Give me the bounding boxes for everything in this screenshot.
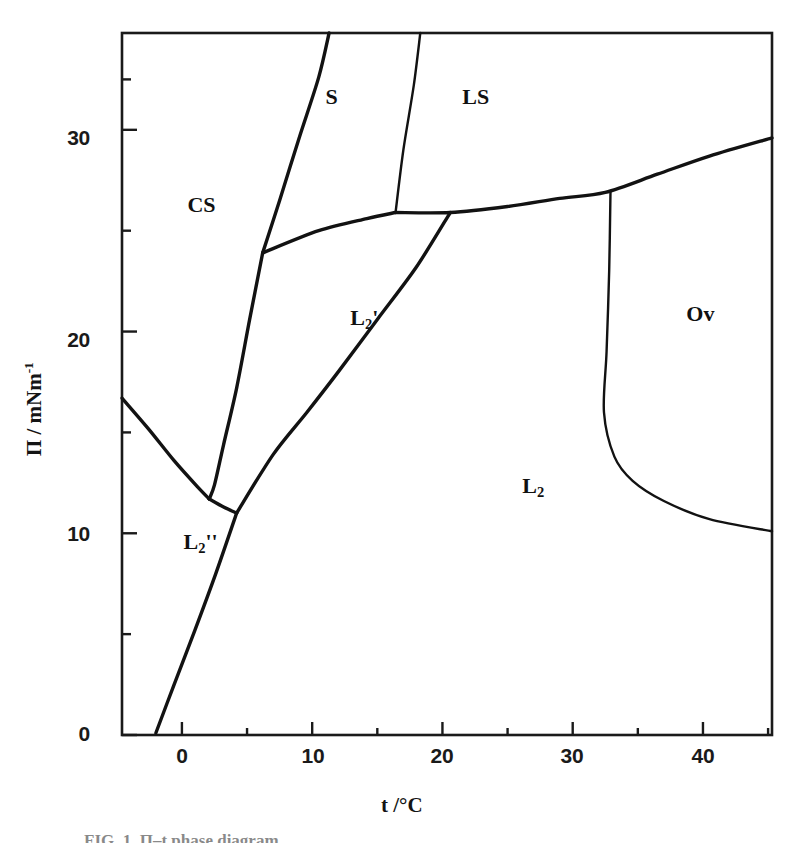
phase-boundary-ls-l2-upper xyxy=(396,138,772,213)
region-label-prime: ' xyxy=(372,305,378,330)
region-label-L2prime: L2' xyxy=(350,305,378,333)
region-label-L2: L2 xyxy=(522,473,544,501)
y-axis-title-text: Π / mNm xyxy=(22,373,46,456)
region-label-text: L xyxy=(522,473,537,498)
x-axis-title: t /°C xyxy=(381,793,423,818)
phase-boundary-l2prime-l2 xyxy=(237,213,451,514)
x-tick-label-0: 0 xyxy=(162,744,202,768)
region-label-S: S xyxy=(326,84,338,110)
region-label-Ov: Ov xyxy=(686,301,714,327)
figure-caption: FIG. 1. Π–t phase diagram xyxy=(84,831,279,843)
phase-boundaries xyxy=(122,33,772,733)
phase-boundary-cs-l2prime-lower xyxy=(209,253,262,499)
region-label-text: L xyxy=(184,529,199,554)
x-tick-label-10: 10 xyxy=(293,744,333,768)
region-label-text: LS xyxy=(462,84,489,109)
y-axis-title-exponent: -1 xyxy=(21,362,36,373)
y-tick-label-10: 10 xyxy=(48,522,90,546)
region-label-LS: LS xyxy=(462,84,489,110)
region-label-subscript: 2 xyxy=(537,484,544,500)
axis-ticks xyxy=(122,79,768,735)
y-tick-label-20: 20 xyxy=(48,328,90,352)
region-label-text: L xyxy=(350,305,365,330)
phase-boundary-l2-ov xyxy=(604,192,772,531)
phase-diagram-figure: 30 20 10 0 0 10 20 30 40 Π / mNm-1 t /°C… xyxy=(0,0,812,843)
y-tick-label-30: 30 xyxy=(48,126,90,150)
phase-boundary-l2dprime-cs xyxy=(122,398,209,499)
region-label-text: CS xyxy=(187,192,215,217)
phase-boundary-cs-junction-short xyxy=(209,499,236,513)
phase-boundary-s-ls xyxy=(396,33,421,213)
plot-canvas xyxy=(0,0,812,843)
x-tick-label-30: 30 xyxy=(552,744,592,768)
region-label-text: S xyxy=(326,84,338,109)
region-label-prime: '' xyxy=(206,529,218,554)
plot-frame xyxy=(122,33,772,735)
x-tick-label-20: 20 xyxy=(422,744,462,768)
phase-boundary-cs-s-upper xyxy=(263,33,329,253)
region-label-L2dprime: L2'' xyxy=(184,529,218,557)
plot-frame-rect xyxy=(122,33,772,735)
y-axis-title: Π / mNm-1 xyxy=(21,319,47,499)
y-tick-label-0: 0 xyxy=(48,722,90,746)
phase-boundary-cs-s-ls-tieline xyxy=(263,213,396,253)
region-label-subscript: 2 xyxy=(198,540,205,556)
region-label-text: Ov xyxy=(686,301,714,326)
x-tick-label-40: 40 xyxy=(683,744,723,768)
region-label-CS: CS xyxy=(187,192,215,218)
